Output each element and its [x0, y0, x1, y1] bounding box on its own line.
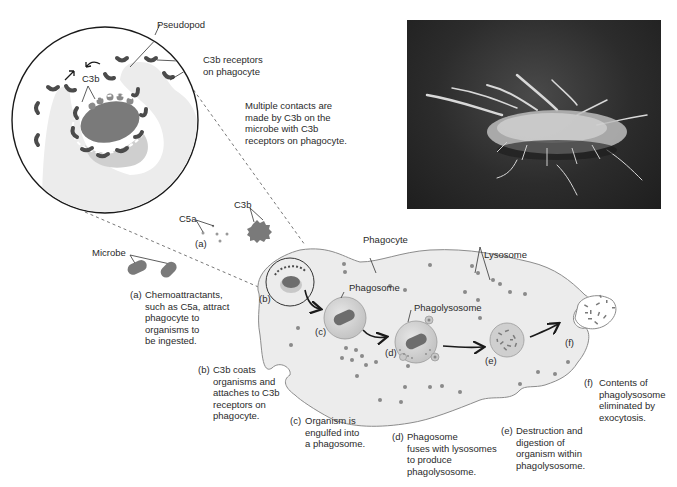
- step-letter: (f): [584, 377, 593, 389]
- e-marker: (e): [485, 355, 497, 367]
- digesting-phagolysosome: [490, 323, 524, 357]
- c3b-label: C3b: [234, 199, 251, 211]
- phagocyte-label: Phagocyte: [363, 234, 408, 246]
- step-letter: (e): [501, 425, 513, 437]
- c3b-cluster: [247, 220, 272, 243]
- step-letter: (a): [130, 289, 142, 301]
- phagocytosis-diagram: Pseudopod C3b receptors on phagocyte C3b…: [0, 0, 677, 487]
- pseudopod-label: Pseudopod: [157, 19, 205, 31]
- step-caption-f: (f) Contents of phagolysosome eliminated…: [584, 377, 677, 423]
- multiple-contacts-note: Multiple contacts are made by C3b on the…: [245, 100, 347, 146]
- f-marker: (f): [565, 337, 574, 349]
- step-text: Destruction and digestion of organism wi…: [501, 425, 611, 471]
- a-marker: (a): [195, 238, 207, 250]
- step-text: Chemoattractants, such as C5a, attract p…: [130, 289, 260, 347]
- phagosome-label: Phagosome: [349, 282, 400, 294]
- step-caption-a: (a) Chemoattractants, such as C5a, attra…: [130, 289, 260, 347]
- sem-photograph: [407, 20, 661, 209]
- step-letter: (c): [290, 415, 301, 427]
- step-caption-c: (c) Organism is engulfed into a phagosom…: [290, 415, 390, 450]
- phagosome: [324, 297, 366, 339]
- microbe-label: Microbe: [92, 247, 126, 259]
- b-marker: (b): [259, 293, 271, 305]
- d-marker: (d): [385, 347, 397, 359]
- inset-circle-b: [266, 258, 314, 306]
- step-letter: (d): [392, 431, 404, 443]
- inset-magnified-view: [12, 24, 200, 213]
- lysosome-label: Lysosome: [484, 249, 527, 261]
- step-text: C3b coats organisms and attaches to C3b …: [198, 364, 308, 422]
- step-text: Organism is engulfed into a phagosome.: [290, 415, 390, 450]
- c5a-label: C5a: [179, 213, 196, 225]
- step-letter: (b): [198, 364, 210, 376]
- c3b-receptors-label: C3b receptors on phagocyte: [203, 54, 263, 77]
- step-text: Contents of phagolysosome eliminated by …: [584, 377, 677, 423]
- inset-c3b-label: C3b: [82, 73, 99, 85]
- phagolysosome-label: Phagolysosome: [414, 302, 482, 314]
- step-caption-b: (b) C3b coats organisms and attaches to …: [198, 364, 308, 422]
- c-marker: (c): [315, 326, 326, 338]
- exocytosis-pocket: [575, 296, 616, 329]
- step-caption-e: (e) Destruction and digestion of organis…: [501, 425, 611, 471]
